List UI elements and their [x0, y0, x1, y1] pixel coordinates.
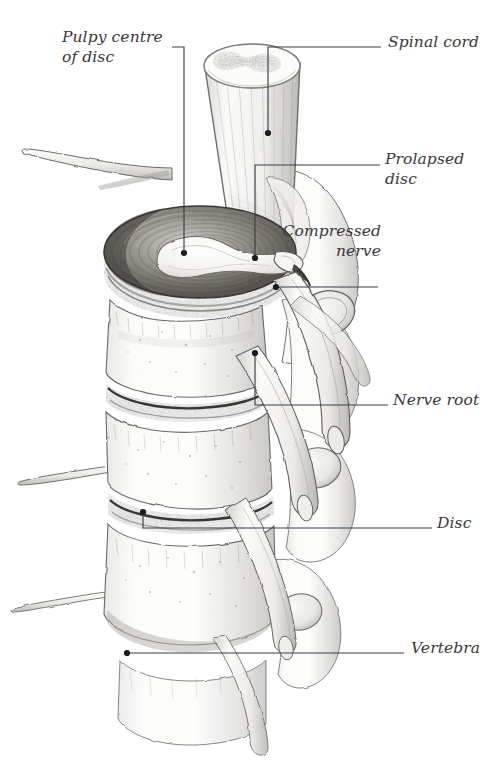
callout-label-pulpy-centre: Pulpy centre of disc: [62, 28, 163, 68]
callout-label-vertebra: Vertebra: [411, 639, 480, 659]
callout-label-nerve-root: Nerve root: [393, 391, 479, 411]
callout-label-disc: Disc: [437, 514, 471, 534]
callout-label-prolapsed-disc: Prolapsed disc: [385, 150, 499, 190]
callout-label-compressed-nerve: Compressed nerve: [283, 222, 381, 262]
callout-label-spinal-cord: Spinal cord: [388, 33, 479, 53]
anatomical-figure: Pulpy centre of discSpinal cordProlapsed…: [0, 0, 499, 762]
